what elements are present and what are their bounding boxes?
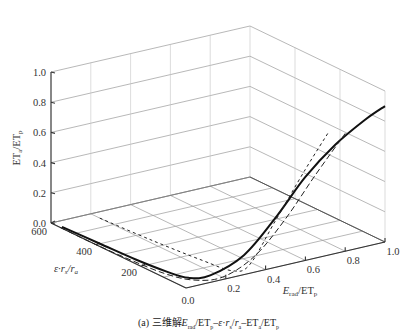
back-wall-grid-line [51,56,250,102]
y-tick-label: 0.0 [181,295,194,306]
floor-edge [250,177,385,242]
y-axis-label: ε·rs/ra [54,263,79,276]
z-tick-label: 0.2 [33,188,46,199]
figure-caption: (a) 三维解Erad/ETp–ε·rs/ra–ETa/ETp [0,314,417,330]
x-axis-label: Erad/ETp [282,285,318,298]
caption-prefix: (a) 三维解 [138,317,182,328]
x-tick-label: 0.6 [307,264,320,275]
y-tick-label: 200 [121,267,137,278]
side-wall-grid-line [250,26,385,91]
back-wall-grid-line [51,26,250,72]
z-tick-label: 0.6 [33,127,46,138]
z-tick [51,132,55,133]
x-tick-label: 0.4 [267,274,281,285]
x-tick-label: 0.8 [347,255,360,266]
series-solid [62,106,385,278]
back-wall-grid-line [51,117,250,163]
z-tick-label: 1.0 [33,67,46,78]
x-tick-label: 0.2 [227,283,240,294]
z-tick [51,163,55,164]
back-wall-grid-line [51,147,250,193]
z-tick [51,193,55,194]
z-axis-label: ETa/ETp [11,130,24,166]
side-wall-grid-line [250,147,385,212]
chart-3d: 0.00.20.40.60.81.06004002000.00.20.40.60… [0,0,417,334]
back-wall-grid-line [51,86,250,132]
series-long-dash [60,133,345,280]
y-tick-label: 400 [76,246,92,257]
z-tick-label: 0.4 [33,158,47,169]
z-tick-label: 0.8 [33,97,46,108]
z-tick [51,72,55,73]
x-tick-label: 1.0 [386,246,399,257]
side-wall-grid-line [250,56,385,121]
y-tick-label: 600 [31,226,47,237]
z-tick [51,102,55,103]
